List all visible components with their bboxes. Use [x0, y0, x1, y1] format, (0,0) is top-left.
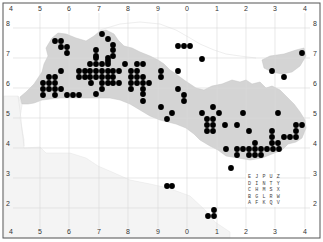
- x-axis-label: 7: [97, 228, 101, 235]
- x-axis-label: 5: [38, 5, 42, 12]
- occurrence-dot: [199, 56, 205, 62]
- y-axis-label: 6: [313, 80, 317, 87]
- occurrence-dot: [258, 152, 264, 158]
- y-axis-label: 2: [313, 200, 317, 207]
- x-axis-label: 4: [9, 5, 13, 12]
- occurrence-dot: [64, 44, 70, 50]
- occurrence-dot: [216, 110, 222, 116]
- occurrence-dot: [134, 80, 140, 86]
- occurrence-dot: [228, 165, 234, 171]
- occurrence-dot: [252, 152, 258, 158]
- occurrence-dot: [52, 38, 58, 44]
- x-axis-label: 8: [126, 5, 130, 12]
- occurrence-dot: [234, 122, 240, 128]
- occurrence-dot: [246, 146, 252, 152]
- legend-row: B G L R W: [248, 194, 280, 200]
- occurrence-dot: [52, 92, 58, 98]
- occurrence-dot: [128, 80, 134, 86]
- occurrence-dot: [105, 74, 111, 80]
- occurrence-dot: [269, 68, 275, 74]
- occurrence-dot: [140, 80, 146, 86]
- occurrence-dot: [134, 61, 140, 67]
- occurrence-dot: [181, 43, 187, 49]
- x-axis-label: 0: [185, 5, 189, 12]
- x-axis-label: 4: [303, 228, 307, 235]
- occurrence-dot: [128, 68, 134, 74]
- occurrence-dot: [199, 110, 205, 116]
- occurrence-dot: [204, 128, 210, 134]
- occurrence-dot: [99, 68, 105, 74]
- occurrence-dot: [275, 140, 281, 146]
- occurrence-dot: [293, 134, 299, 140]
- x-axis-label: 5: [38, 228, 42, 235]
- occurrence-dot: [158, 104, 164, 110]
- occurrence-dot: [175, 43, 181, 49]
- occurrence-dot: [105, 36, 111, 42]
- occurrence-dot: [70, 92, 76, 98]
- occurrence-dot: [158, 74, 164, 80]
- occurrence-dot: [99, 74, 105, 80]
- occurrence-dot: [87, 61, 93, 67]
- occurrence-dot: [88, 80, 94, 86]
- legend-row: C H M S X: [248, 187, 280, 193]
- occurrence-dot: [87, 68, 93, 74]
- occurrence-dot: [110, 80, 116, 86]
- occurrence-dot: [46, 80, 52, 86]
- occurrence-dot: [82, 74, 88, 80]
- occurrence-dot: [116, 68, 122, 74]
- occurrence-dot: [169, 110, 175, 116]
- occurrence-dot: [222, 122, 228, 128]
- occurrence-dot: [293, 128, 299, 134]
- occurrence-dot: [234, 152, 240, 158]
- occurrence-dot: [140, 98, 146, 104]
- occurrence-dot: [223, 146, 229, 152]
- occurrence-dot: [99, 80, 105, 86]
- y-axis-label: 2: [6, 200, 10, 207]
- occurrence-dot: [82, 68, 88, 74]
- x-axis-label: 4: [303, 5, 307, 12]
- occurrence-dot: [110, 68, 116, 74]
- occurrence-dot: [76, 92, 82, 98]
- y-axis-label: 5: [313, 110, 317, 117]
- occurrence-dot: [240, 146, 246, 152]
- occurrence-dot: [269, 134, 275, 140]
- x-axis-label: 8: [126, 228, 130, 235]
- occurrence-dot: [169, 183, 175, 189]
- occurrence-dot: [58, 86, 64, 92]
- legend-row: E J P U Z: [248, 174, 280, 180]
- y-axis-label: 3: [313, 170, 317, 177]
- occurrence-dot: [175, 86, 181, 92]
- x-axis-label: 1: [215, 5, 219, 12]
- occurrence-dot: [299, 122, 305, 128]
- occurrence-dot: [210, 122, 216, 128]
- x-axis-label: 3: [273, 228, 277, 235]
- occurrence-dot: [210, 116, 216, 122]
- x-axis-label: 6: [67, 5, 71, 12]
- occurrence-dot: [110, 42, 116, 48]
- x-axis-label: 6: [67, 228, 71, 235]
- occurrence-dot: [187, 43, 193, 49]
- x-axis-label: 7: [97, 5, 101, 12]
- occurrence-dot: [181, 92, 187, 98]
- occurrence-dot: [210, 104, 216, 110]
- occurrence-dot: [40, 80, 46, 86]
- occurrence-dot: [264, 146, 270, 152]
- occurrence-dot: [175, 68, 181, 74]
- occurrence-dot: [110, 47, 116, 53]
- occurrence-dot: [76, 68, 82, 74]
- x-axis-label: 2: [244, 228, 248, 235]
- occurrence-dot: [52, 86, 58, 92]
- occurrence-dot: [276, 146, 282, 152]
- occurrence-dot: [40, 86, 46, 92]
- occurrence-dot: [252, 140, 258, 146]
- legend-row: D I N T Y: [248, 181, 280, 187]
- distribution-map: 45678901234 45678901234 8765432 8765432 …: [0, 0, 323, 242]
- occurrence-dot: [246, 128, 252, 134]
- y-axis-label: 7: [313, 50, 317, 57]
- occurrence-dot: [164, 183, 170, 189]
- occurrence-dot: [76, 74, 82, 80]
- occurrence-dot: [140, 74, 146, 80]
- legend-row: A F K Q V: [248, 200, 280, 206]
- occurrence-dot: [52, 74, 58, 80]
- occurrence-dot: [93, 74, 99, 80]
